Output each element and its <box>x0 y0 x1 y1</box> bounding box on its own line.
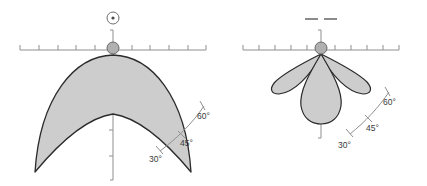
angle-label-30: 30° <box>149 154 162 164</box>
panel-right: 60° 45° 30° <box>213 0 427 186</box>
radiation-pattern-figure: 60° 45° 30° <box>0 0 427 186</box>
angle-scale-arc: 60° 45° 30° <box>338 87 396 150</box>
angle-label-45: 45° <box>180 138 193 148</box>
origin-ball <box>315 42 327 54</box>
panel-left-svg: 60° 45° 30° <box>0 0 214 186</box>
angle-label-30: 30° <box>338 140 351 150</box>
dot-in-circle-icon <box>107 12 119 24</box>
angle-label-45: 45° <box>366 123 379 133</box>
angle-label-60: 60° <box>197 111 210 121</box>
origin-ball <box>107 42 119 54</box>
panel-right-svg: 60° 45° 30° <box>213 0 427 186</box>
angle-label-60: 60° <box>383 97 396 107</box>
panel-left: 60° 45° 30° <box>0 0 214 186</box>
